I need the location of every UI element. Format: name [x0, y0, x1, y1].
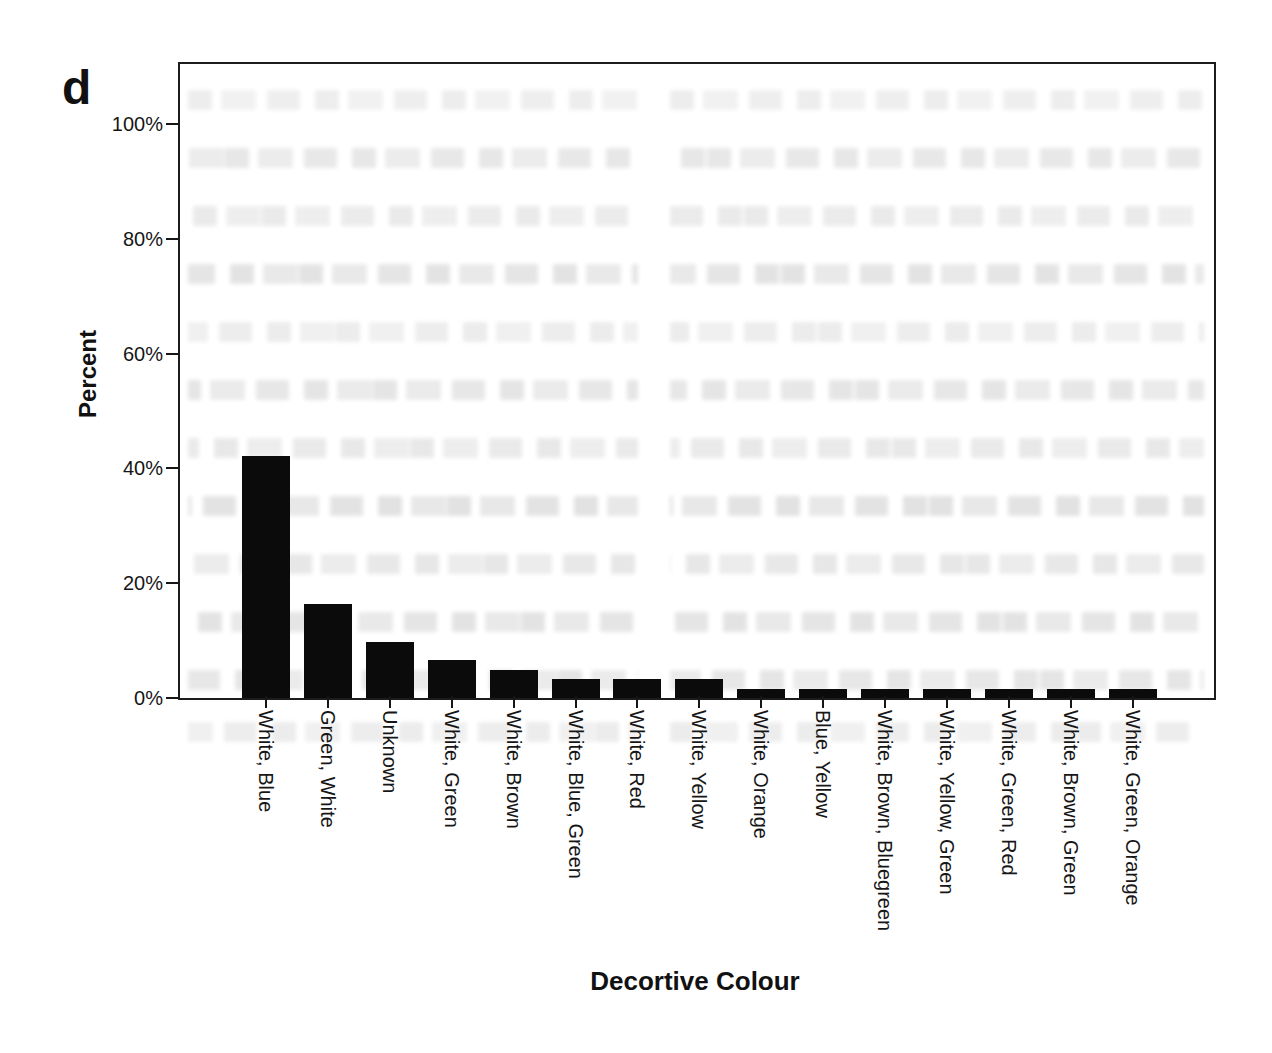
x-axis-tick: [1132, 696, 1134, 708]
x-axis-tick: [1070, 696, 1072, 708]
bleedthrough-texture-row: [188, 148, 638, 168]
bar: [366, 642, 414, 698]
bar: [242, 456, 290, 698]
y-axis-title: Percent: [74, 330, 102, 418]
y-axis-tick: [166, 238, 178, 240]
x-axis-tick: [451, 696, 453, 708]
bar: [304, 604, 352, 698]
x-category-label: White, Blue, Green: [566, 710, 586, 879]
x-category-label: White, Yellow: [689, 710, 709, 829]
x-category-label: White, Blue: [256, 710, 276, 812]
x-axis-tick: [822, 696, 824, 708]
x-axis-tick: [389, 696, 391, 708]
bleedthrough-texture-row: [670, 148, 1204, 168]
x-category-label: White, Brown, Green: [1061, 710, 1081, 896]
scanned-figure-page: d Percent 0%20%40%60%80%100%White, BlueG…: [0, 0, 1272, 1053]
bleedthrough-texture-row: [670, 612, 1204, 632]
bar: [490, 670, 538, 698]
x-category-label: Unknown: [380, 710, 400, 793]
y-axis-tick-label: 0%: [134, 687, 163, 709]
bar: [428, 660, 476, 698]
x-axis-tick: [327, 696, 329, 708]
bleedthrough-texture-row: [670, 670, 1204, 690]
y-axis-tick-label: 80%: [123, 228, 163, 250]
x-category-label: White, Green: [442, 710, 462, 828]
x-category-label: Green, White: [318, 710, 338, 828]
x-category-label: White, Green, Red: [999, 710, 1019, 876]
figure-panel-label: d: [62, 64, 91, 112]
x-axis-tick: [760, 696, 762, 708]
y-axis-tick: [166, 697, 178, 699]
y-axis-tick-label: 60%: [123, 343, 163, 365]
bleedthrough-texture-row: [670, 554, 1204, 574]
x-axis-tick: [265, 696, 267, 708]
x-axis-title: Decortive Colour: [178, 966, 1212, 997]
bleedthrough-texture-row: [670, 496, 1204, 516]
bleedthrough-texture-row: [188, 380, 638, 400]
bleedthrough-texture-row: [188, 206, 638, 226]
x-category-label: White, Brown, Bluegreen: [875, 710, 895, 931]
y-axis-tick: [166, 353, 178, 355]
x-axis-tick: [575, 696, 577, 708]
bleedthrough-texture-row: [670, 438, 1204, 458]
plot-area: 0%20%40%60%80%100%White, BlueGreen, Whit…: [178, 62, 1216, 700]
bleedthrough-texture-row: [188, 90, 638, 110]
y-axis-tick: [166, 467, 178, 469]
x-axis-tick: [698, 696, 700, 708]
bleedthrough-texture-row: [188, 322, 638, 342]
x-category-label: Blue, Yellow: [813, 710, 833, 818]
y-axis-tick-label: 40%: [123, 457, 163, 479]
x-axis-tick: [1008, 696, 1010, 708]
x-category-label: White, Orange: [751, 710, 771, 839]
x-axis-tick: [884, 696, 886, 708]
y-axis-tick: [166, 123, 178, 125]
y-axis-tick: [166, 582, 178, 584]
y-axis-tick-label: 100%: [112, 113, 163, 135]
y-axis-tick-label: 20%: [123, 572, 163, 594]
x-category-label: White, Green, Orange: [1123, 710, 1143, 906]
bleedthrough-texture-row: [188, 264, 638, 284]
bleedthrough-texture-row: [670, 90, 1204, 110]
x-category-label: White, Red: [627, 710, 647, 809]
bleedthrough-texture-row: [670, 206, 1204, 226]
x-category-label: White, Yellow, Green: [937, 710, 957, 895]
bleedthrough-texture-row: [670, 264, 1204, 284]
bleedthrough-texture-row: [670, 322, 1204, 342]
x-axis-tick: [636, 696, 638, 708]
x-category-label: White, Brown: [504, 710, 524, 829]
x-axis-tick: [513, 696, 515, 708]
bleedthrough-texture-row: [670, 380, 1204, 400]
x-axis-tick: [946, 696, 948, 708]
